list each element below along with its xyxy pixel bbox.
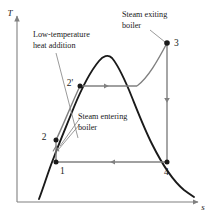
state-point-label-2-prime: 2' [67,78,74,88]
annotation-steam-entering-line2: boiler [78,123,97,132]
annotation-steam-entering-boiler: Steam entering boiler [78,112,127,132]
state-point-label-1: 1 [60,166,65,176]
annotation-low-temp-line1: Low-temperature [33,30,90,39]
annotation-steam-entering-line1: Steam entering [78,112,127,121]
state-point-marker-2 [54,138,59,143]
state-point-label-2: 2 [42,132,47,142]
state-point-label-3: 3 [174,38,179,48]
state-point-marker-2-prime [78,84,83,89]
process-superheat-to-3 [137,43,167,86]
y-axis-label: T [7,8,13,18]
state-point-marker-1 [54,160,59,165]
annotation-low-temperature-heat-addition: Low-temperature heat addition [33,30,90,50]
state-point-marker-3 [164,40,170,46]
annotation-steam-exiting-line1: Steam exiting [122,10,167,19]
state-point-marker-4 [165,160,170,165]
annotation-steam-exiting-line2: boiler [122,21,141,30]
leader-steam-exiting-boiler [150,30,165,42]
annotation-low-temp-line2: heat addition [33,41,76,50]
arrow-marker-3-to-4 [164,98,170,103]
ts-diagram-figure: T s [0,0,212,213]
ts-diagram-canvas: T s [0,0,212,213]
arrow-marker-4-to-1 [110,159,115,164]
state-point-label-4: 4 [164,167,169,177]
annotation-steam-exiting-boiler: Steam exiting boiler [122,10,167,30]
arrow-marker-boiler-horizontal [104,83,109,88]
x-axis-label: s [201,202,205,212]
